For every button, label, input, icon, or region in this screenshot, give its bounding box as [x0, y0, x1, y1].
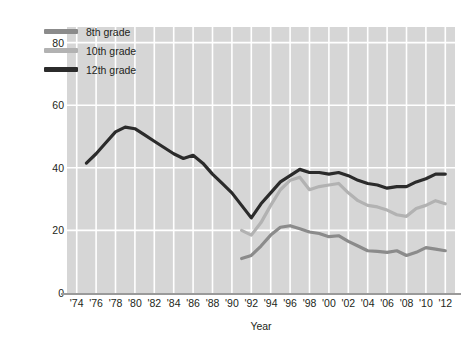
- x-tick-label: '98: [303, 297, 317, 309]
- y-tick-label: 20: [40, 224, 64, 236]
- x-tick-label: '00: [322, 297, 336, 309]
- x-tick-label: '78: [109, 297, 123, 309]
- x-axis-tick-labels: '74'76'78'80'82'84'86'88'90'92'94'96'98'…: [67, 297, 455, 313]
- x-tick-label: '90: [225, 297, 239, 309]
- x-tick-label: '02: [341, 297, 355, 309]
- x-tick-label: '82: [147, 297, 161, 309]
- chart-legend: 8th grade 10th grade 12th grade: [44, 22, 204, 79]
- chart-figure: Trends in the percent of U.S. adolescent…: [0, 0, 475, 344]
- legend-label-10th-grade: 10th grade: [86, 45, 136, 57]
- x-tick-label: '88: [206, 297, 220, 309]
- x-tick-label: '04: [361, 297, 375, 309]
- x-axis-line: [61, 293, 461, 295]
- legend-swatch-8th-grade: [44, 29, 78, 34]
- x-tick-label: '80: [128, 297, 142, 309]
- x-tick-label: '94: [264, 297, 278, 309]
- y-tick-label: 60: [40, 99, 64, 111]
- data-series-group: [86, 127, 445, 258]
- y-tick-label: 40: [40, 162, 64, 174]
- legend-swatch-10th-grade: [44, 48, 78, 53]
- x-tick-label: '84: [167, 297, 181, 309]
- legend-swatch-12th-grade: [44, 67, 78, 72]
- x-tick-label: '10: [419, 297, 433, 309]
- x-tick-label: '92: [244, 297, 258, 309]
- x-axis-title: Year: [67, 320, 455, 332]
- legend-item-12th-grade: 12th grade: [44, 60, 204, 79]
- legend-label-8th-grade: 8th grade: [86, 26, 130, 38]
- legend-item-8th-grade: 8th grade: [44, 22, 204, 41]
- x-tick-label: '12: [438, 297, 452, 309]
- legend-label-12th-grade: 12th grade: [86, 64, 136, 76]
- x-tick-label: '76: [89, 297, 103, 309]
- legend-item-10th-grade: 10th grade: [44, 41, 204, 60]
- x-tick-label: '86: [186, 297, 200, 309]
- x-tick-label: '74: [70, 297, 84, 309]
- series-line-10th-grade: [242, 177, 446, 235]
- x-tick-label: '06: [380, 297, 394, 309]
- x-tick-label: '96: [283, 297, 297, 309]
- series-line-12th-grade: [86, 127, 445, 218]
- x-tick-label: '08: [400, 297, 414, 309]
